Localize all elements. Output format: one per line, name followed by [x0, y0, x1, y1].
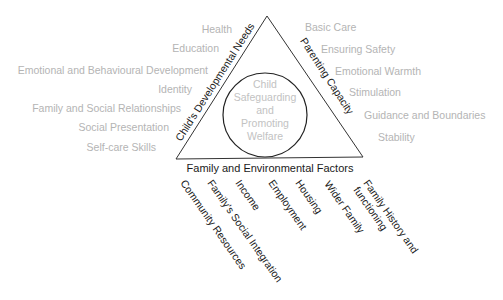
bottom-items: Community Resources Family's Social Inte…	[178, 177, 421, 284]
left-item: Education	[172, 42, 219, 54]
center-line-2: Safeguarding	[234, 91, 297, 103]
right-item: Guidance and Boundaries	[364, 109, 485, 121]
side-label-bottom: Family and Environmental Factors	[187, 162, 354, 174]
center-line-4: Promoting	[241, 117, 289, 129]
center-line-3: and	[256, 104, 274, 116]
center-line-1: Child	[253, 78, 277, 90]
right-item: Basic Care	[305, 21, 357, 33]
center-label: Child Safeguarding and Promoting Welfare	[234, 78, 297, 142]
left-item: Family and Social Relationships	[32, 102, 181, 114]
right-item: Stability	[378, 131, 416, 143]
bottom-item: Income	[233, 177, 263, 212]
left-item: Emotional and Behavioural Development	[18, 64, 208, 76]
right-item: Emotional Warmth	[335, 65, 421, 77]
framework-diagram: Child Safeguarding and Promoting Welfare…	[0, 0, 503, 300]
left-item: Social Presentation	[79, 121, 170, 133]
right-item: Ensuring Safety	[321, 43, 396, 55]
left-item: Identity	[158, 83, 193, 95]
left-item: Health	[202, 23, 233, 35]
left-items: Health Education Emotional and Behaviour…	[18, 23, 232, 153]
right-item: Stimulation	[349, 86, 401, 98]
center-line-5: Welfare	[247, 130, 283, 142]
left-item: Self-care Skills	[87, 141, 156, 153]
